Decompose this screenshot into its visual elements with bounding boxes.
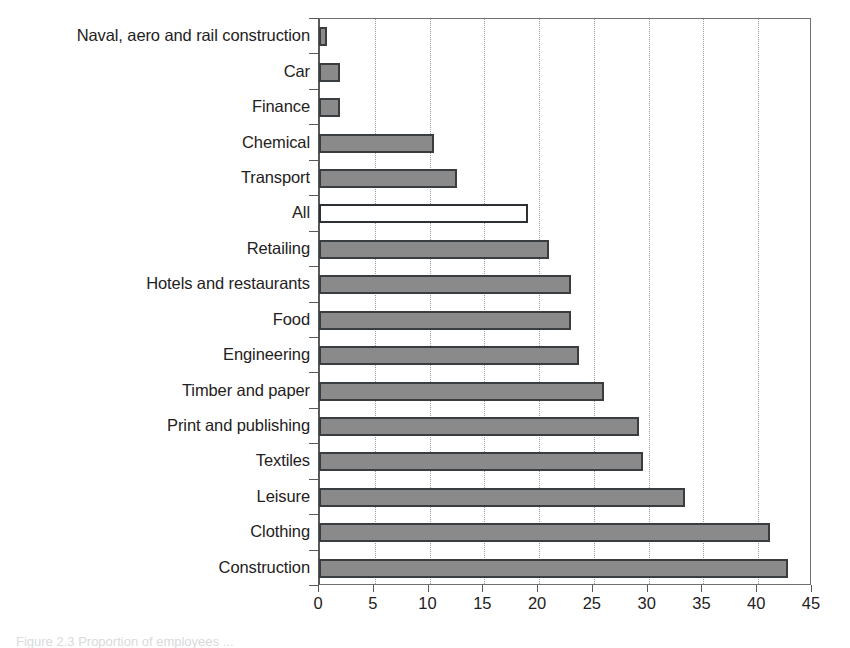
y-axis-label: Hotels and restaurants (146, 266, 310, 301)
x-axis-tick-label: 35 (671, 594, 731, 613)
x-axis-tick (701, 585, 702, 592)
bar-row (320, 551, 810, 586)
bar-chart-figure: Naval, aero and rail constructionCarFina… (0, 0, 850, 648)
x-axis-tick (592, 585, 593, 592)
bar-row (320, 19, 810, 54)
x-axis-tick-label: 20 (507, 594, 567, 613)
bar-row (320, 161, 810, 196)
bar-row (320, 409, 810, 444)
y-axis-label: Leisure (257, 479, 310, 514)
y-axis-label: Textiles (256, 443, 310, 478)
x-axis-tick-label: 5 (343, 594, 403, 613)
bar-row (320, 267, 810, 302)
y-axis-tick (309, 160, 318, 161)
figure-caption: Figure 2.3 Proportion of employees ... (16, 634, 234, 648)
bar-row (320, 338, 810, 373)
y-axis-tick (309, 266, 318, 267)
y-axis-labels: Naval, aero and rail constructionCarFina… (0, 18, 314, 585)
bar-leisure (319, 488, 685, 507)
bar-naval-aero-and-rail-construction (319, 27, 327, 46)
y-axis-tick (309, 514, 318, 515)
bar-row (320, 373, 810, 408)
x-axis-tick (647, 585, 648, 592)
y-axis-label: Food (273, 302, 310, 337)
bar-engineering (319, 346, 579, 365)
y-axis-tick (309, 302, 318, 303)
bar-row (320, 196, 810, 231)
y-axis-label: Chemical (242, 124, 310, 159)
x-axis-tick (537, 585, 538, 592)
x-axis-tick (811, 585, 812, 592)
y-axis-tick (309, 231, 318, 232)
bar-car (319, 63, 340, 82)
y-axis-label: Finance (252, 89, 310, 124)
y-axis-tick (309, 124, 318, 125)
y-axis-tick (309, 53, 318, 54)
plot-area (318, 18, 811, 585)
x-axis-tick-label: 45 (781, 594, 841, 613)
x-axis-tick-label: 0 (288, 594, 348, 613)
bar-series (320, 19, 810, 584)
bar-chemical (319, 134, 434, 153)
bar-row (320, 90, 810, 125)
y-axis-label: Naval, aero and rail construction (77, 18, 310, 53)
y-axis-label: Construction (219, 550, 310, 585)
y-axis-label: Print and publishing (167, 408, 310, 443)
x-axis-tick (428, 585, 429, 592)
y-axis-tick (309, 585, 318, 586)
x-axis-tick (318, 585, 319, 592)
bar-print-and-publishing (319, 417, 639, 436)
y-axis-label: Retailing (247, 231, 310, 266)
y-axis-tick (309, 18, 318, 19)
y-axis-tick (309, 89, 318, 90)
y-axis-label: All (292, 195, 310, 230)
bar-clothing (319, 523, 770, 542)
bar-row (320, 54, 810, 89)
bar-hotels-and-restaurants (319, 275, 571, 294)
bar-food (319, 311, 571, 330)
bar-construction (319, 559, 788, 578)
bar-row (320, 444, 810, 479)
bar-retailing (319, 240, 549, 259)
y-axis-tick (309, 337, 318, 338)
bar-all (319, 204, 528, 223)
x-axis-tick-label: 25 (562, 594, 622, 613)
y-axis-label: Car (284, 53, 310, 88)
y-axis-tick (309, 408, 318, 409)
bar-timber-and-paper (319, 382, 604, 401)
y-axis-tick (309, 550, 318, 551)
bar-row (320, 125, 810, 160)
y-axis-label: Transport (241, 160, 310, 195)
bar-textiles (319, 452, 643, 471)
x-axis-tick (373, 585, 374, 592)
y-axis-tick (309, 479, 318, 480)
bar-row (320, 232, 810, 267)
bar-finance (319, 98, 340, 117)
x-axis-tick-label: 30 (617, 594, 677, 613)
y-axis-tick (309, 195, 318, 196)
bar-row (320, 480, 810, 515)
bar-row (320, 515, 810, 550)
y-axis-label: Timber and paper (182, 372, 310, 407)
bar-row (320, 303, 810, 338)
y-axis-tick (309, 443, 318, 444)
x-axis-tick-label: 40 (726, 594, 786, 613)
y-axis-label: Engineering (223, 337, 310, 372)
x-axis-tick (756, 585, 757, 592)
x-axis-tick (482, 585, 483, 592)
y-axis-label: Clothing (250, 514, 310, 549)
bar-transport (319, 169, 457, 188)
x-axis-tick-label: 10 (398, 594, 458, 613)
x-axis-tick-label: 15 (452, 594, 512, 613)
y-axis-tick (309, 372, 318, 373)
